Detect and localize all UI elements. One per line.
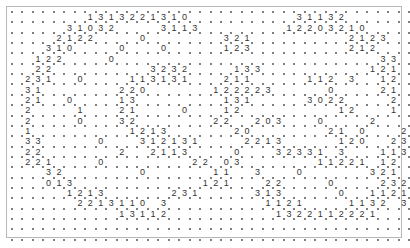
cell[interactable]: 1 bbox=[85, 188, 95, 198]
cell[interactable] bbox=[368, 74, 378, 84]
cell[interactable]: 0 bbox=[138, 33, 148, 43]
cell[interactable]: 3 bbox=[253, 188, 263, 198]
cell[interactable]: 3 bbox=[64, 23, 74, 33]
cell[interactable] bbox=[368, 136, 378, 146]
cell[interactable] bbox=[169, 157, 179, 167]
cell[interactable] bbox=[315, 126, 325, 136]
cell[interactable]: 2 bbox=[388, 95, 398, 105]
cell[interactable] bbox=[12, 116, 22, 126]
cell[interactable] bbox=[54, 64, 64, 74]
cell[interactable] bbox=[294, 64, 304, 74]
cell[interactable]: 2 bbox=[378, 85, 388, 95]
cell[interactable] bbox=[44, 33, 54, 43]
cell[interactable] bbox=[54, 12, 64, 22]
cell[interactable]: 3 bbox=[23, 136, 33, 146]
cell[interactable] bbox=[127, 230, 137, 240]
cell[interactable]: 0 bbox=[44, 178, 54, 188]
cell[interactable] bbox=[44, 230, 54, 240]
cell[interactable] bbox=[75, 230, 85, 240]
cell[interactable]: 2 bbox=[221, 85, 231, 95]
cell[interactable] bbox=[106, 209, 116, 219]
cell[interactable] bbox=[315, 136, 325, 146]
cell[interactable] bbox=[326, 54, 336, 64]
cell[interactable] bbox=[305, 136, 315, 146]
cell[interactable] bbox=[33, 219, 43, 229]
cell[interactable] bbox=[44, 209, 54, 219]
cell[interactable] bbox=[305, 167, 315, 177]
cell[interactable] bbox=[378, 95, 388, 105]
cell[interactable] bbox=[85, 105, 95, 115]
cell[interactable] bbox=[253, 43, 263, 53]
cell[interactable]: 2 bbox=[347, 209, 357, 219]
cell[interactable]: 0 bbox=[85, 23, 95, 33]
cell[interactable] bbox=[305, 126, 315, 136]
cell[interactable] bbox=[12, 219, 22, 229]
cell[interactable] bbox=[190, 230, 200, 240]
cell[interactable]: 1 bbox=[221, 95, 231, 105]
cell[interactable] bbox=[148, 167, 158, 177]
cell[interactable]: 3 bbox=[399, 136, 409, 146]
cell[interactable]: 1 bbox=[336, 105, 346, 115]
cell[interactable]: 2 bbox=[127, 85, 137, 95]
cell[interactable]: 2 bbox=[23, 105, 33, 115]
cell[interactable]: 3 bbox=[159, 198, 169, 208]
cell[interactable]: 1 bbox=[336, 126, 346, 136]
cell[interactable] bbox=[263, 126, 273, 136]
cell[interactable] bbox=[221, 198, 231, 208]
cell[interactable] bbox=[273, 54, 283, 64]
cell[interactable] bbox=[44, 147, 54, 157]
cell[interactable]: 1 bbox=[148, 12, 158, 22]
cell[interactable] bbox=[85, 219, 95, 229]
cell[interactable] bbox=[44, 95, 54, 105]
cell[interactable]: 1 bbox=[388, 64, 398, 74]
cell[interactable] bbox=[190, 54, 200, 64]
cell[interactable] bbox=[75, 12, 85, 22]
cell[interactable] bbox=[159, 167, 169, 177]
cell[interactable] bbox=[12, 126, 22, 136]
cell[interactable]: 1 bbox=[347, 198, 357, 208]
cell[interactable] bbox=[148, 188, 158, 198]
cell[interactable] bbox=[33, 188, 43, 198]
cell[interactable] bbox=[159, 188, 169, 198]
cell[interactable]: 2 bbox=[232, 126, 242, 136]
cell[interactable] bbox=[106, 43, 116, 53]
cell[interactable] bbox=[263, 64, 273, 74]
cell[interactable] bbox=[221, 126, 231, 136]
cell[interactable] bbox=[368, 105, 378, 115]
cell[interactable] bbox=[253, 147, 263, 157]
cell[interactable] bbox=[305, 54, 315, 64]
cell[interactable] bbox=[336, 64, 346, 74]
cell[interactable]: 2 bbox=[357, 209, 367, 219]
cell[interactable] bbox=[33, 43, 43, 53]
cell[interactable]: 2 bbox=[179, 64, 189, 74]
cell[interactable]: 0 bbox=[326, 85, 336, 95]
cell[interactable] bbox=[159, 157, 169, 167]
cell[interactable] bbox=[117, 64, 127, 74]
cell[interactable]: 2 bbox=[211, 116, 221, 126]
cell[interactable] bbox=[190, 64, 200, 74]
cell[interactable] bbox=[284, 95, 294, 105]
cell[interactable] bbox=[273, 219, 283, 229]
cell[interactable] bbox=[12, 136, 22, 146]
cell[interactable] bbox=[242, 198, 252, 208]
cell[interactable]: 2 bbox=[284, 198, 294, 208]
cell[interactable] bbox=[232, 198, 242, 208]
cell[interactable]: 1 bbox=[388, 105, 398, 115]
cell[interactable] bbox=[305, 198, 315, 208]
cell[interactable] bbox=[12, 188, 22, 198]
cell[interactable] bbox=[54, 105, 64, 115]
cell[interactable]: 2 bbox=[347, 105, 357, 115]
cell[interactable]: 1 bbox=[117, 209, 127, 219]
cell[interactable]: 2 bbox=[399, 126, 409, 136]
cell[interactable]: 0 bbox=[294, 167, 304, 177]
cell[interactable] bbox=[33, 33, 43, 43]
cell[interactable] bbox=[368, 157, 378, 167]
cell[interactable]: 2 bbox=[221, 74, 231, 84]
cell[interactable]: 0 bbox=[106, 54, 116, 64]
cell[interactable] bbox=[127, 147, 137, 157]
cell[interactable] bbox=[96, 85, 106, 95]
cell[interactable] bbox=[336, 54, 346, 64]
cell[interactable] bbox=[294, 95, 304, 105]
cell[interactable] bbox=[179, 209, 189, 219]
cell[interactable]: 2 bbox=[232, 33, 242, 43]
